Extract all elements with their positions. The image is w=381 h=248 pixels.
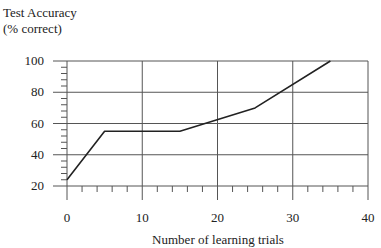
tick-labels: 20406080100010203040 [25, 53, 375, 225]
grid-lines [53, 61, 368, 200]
y-tick-label: 100 [25, 53, 45, 68]
line-chart: 20406080100010203040 Number of learning … [0, 0, 381, 248]
x-tick-label: 0 [64, 210, 71, 225]
accuracy-line [67, 61, 330, 180]
y-tick-label: 60 [31, 116, 44, 131]
x-tick-label: 10 [136, 210, 149, 225]
y-tick-label: 20 [31, 178, 44, 193]
x-axis-title: Number of learning trials [152, 232, 284, 247]
x-tick-label: 20 [211, 210, 224, 225]
y-tick-label: 40 [31, 147, 44, 162]
y-tick-label: 80 [31, 84, 44, 99]
tick-marks [61, 67, 353, 192]
x-tick-label: 30 [286, 210, 299, 225]
x-tick-label: 40 [362, 210, 375, 225]
